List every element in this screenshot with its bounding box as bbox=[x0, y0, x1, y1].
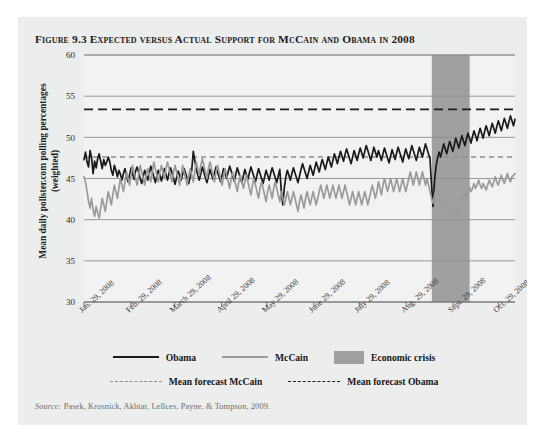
legend-item-obama: Obama bbox=[113, 352, 196, 363]
mccain-line-swatch-icon bbox=[222, 356, 268, 358]
source-text: Pasek, Krosnick, Akhtar, Lellces, Payne,… bbox=[64, 402, 271, 411]
y-tick-label: 35 bbox=[66, 256, 76, 266]
legend-item-mean-forecast-mccain: Mean forecast McCain bbox=[110, 376, 263, 387]
y-tick-label: 55 bbox=[66, 91, 76, 101]
legend-item-mccain: McCain bbox=[222, 352, 308, 363]
y-tick-label: 50 bbox=[66, 133, 76, 143]
legend-item-economic-crisis: Economic crisis bbox=[334, 351, 435, 364]
legend-label-mccain: McCain bbox=[275, 352, 308, 363]
y-tick-label: 30 bbox=[66, 297, 76, 307]
chart-plot-area: Mean daily pollster.com polling percenta… bbox=[18, 47, 527, 347]
chart-legend: Obama McCain Economic crisis Mean foreca… bbox=[35, 345, 513, 397]
y-tick-label: 60 bbox=[66, 50, 76, 60]
legend-label-mean-forecast-mccain: Mean forecast McCain bbox=[169, 376, 263, 387]
legend-item-mean-forecast-obama: Mean forecast Obama bbox=[288, 376, 438, 387]
economic-crisis-block-swatch-icon bbox=[334, 351, 364, 364]
source-label: Source: bbox=[35, 402, 61, 411]
mccain-forecast-dash-swatch-icon bbox=[110, 381, 162, 382]
legend-label-economic-crisis: Economic crisis bbox=[371, 352, 435, 363]
figure-title: Figure 9.3 Expected versus Actual Suppor… bbox=[35, 33, 513, 45]
legend-label-mean-forecast-obama: Mean forecast Obama bbox=[347, 376, 438, 387]
y-tick-label: 45 bbox=[66, 174, 76, 184]
obama-line-swatch-icon bbox=[113, 356, 159, 358]
legend-row-series: Obama McCain Economic crisis bbox=[35, 345, 513, 369]
source-note: Source: Pasek, Krosnick, Akhtar, Lellces… bbox=[35, 402, 270, 411]
legend-row-forecasts: Mean forecast McCain Mean forecast Obama bbox=[35, 369, 513, 393]
legend-label-obama: Obama bbox=[166, 352, 196, 363]
obama-forecast-dash-swatch-icon bbox=[288, 381, 340, 382]
line-chart-svg: 30354045505560Jan. 29, 2008Feb. 29, 2008… bbox=[18, 47, 527, 347]
figure-card: Figure 9.3 Expected versus Actual Suppor… bbox=[18, 17, 527, 425]
y-tick-label: 40 bbox=[66, 215, 76, 225]
